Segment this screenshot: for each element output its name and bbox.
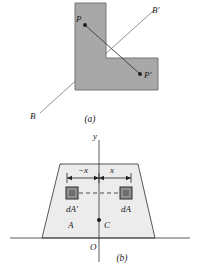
trapezoid-region: [42, 164, 155, 238]
area-label: A: [67, 220, 74, 230]
panel-b: y O x −x dA' dA: [0, 128, 199, 273]
panel-a: P P' B B' (a): [0, 0, 199, 130]
area-element-right-label: dA: [121, 204, 132, 214]
axis-label-b: B: [30, 111, 36, 121]
axis-label-b-prime: B': [152, 5, 160, 15]
dimension-label-minus-x: −x: [78, 165, 88, 175]
origin-label: O: [90, 242, 97, 252]
figure-root: P P' B B' (a) y O: [0, 0, 199, 273]
dimension-label-x: x: [109, 165, 114, 175]
area-element-left-core: [69, 190, 75, 196]
area-element-left-label: dA': [66, 204, 79, 214]
centroid-label: C: [104, 220, 111, 230]
area-element-right-core: [123, 190, 129, 196]
point-p-prime-marker: [138, 72, 142, 76]
point-p-prime-label: P': [143, 70, 152, 80]
caption-b: (b): [116, 253, 127, 264]
centroid-marker: [97, 218, 101, 222]
point-p-marker: [83, 23, 87, 27]
caption-a: (a): [84, 114, 95, 125]
y-axis-label: y: [92, 131, 97, 141]
point-p-label: P: [75, 14, 82, 24]
panel-b-drawing: y O x −x dA' dA: [0, 128, 199, 273]
panel-a-drawing: P P' B B' (a): [0, 0, 199, 130]
